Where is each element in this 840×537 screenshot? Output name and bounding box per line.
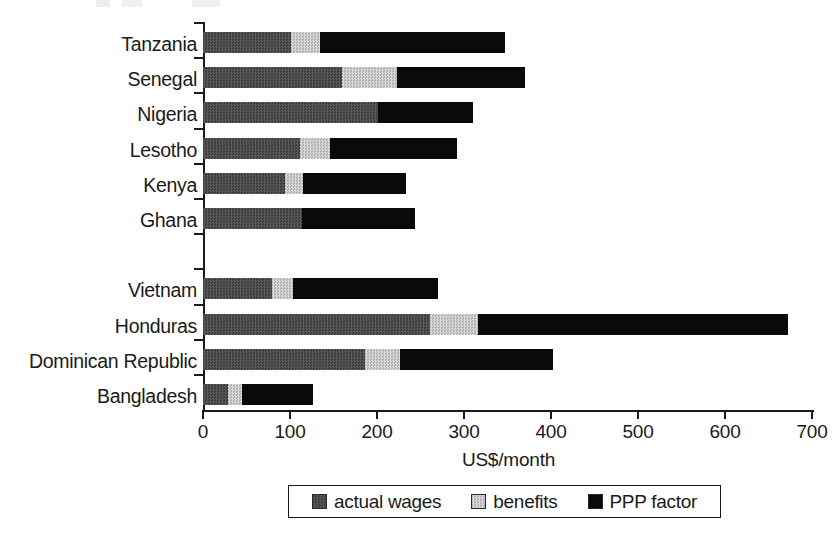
segment-wages <box>203 278 272 299</box>
segment-wages <box>203 67 342 88</box>
category-label-honduras: Honduras <box>2 315 197 337</box>
segment-wages <box>203 102 378 123</box>
segment-benefits <box>285 173 303 194</box>
category-label-vietnam: Vietnam <box>2 279 197 301</box>
value-tick-200 <box>376 410 378 419</box>
value-axis-line <box>203 410 814 412</box>
legend-item-actual-wages: actual wages <box>312 492 441 512</box>
value-tick-400 <box>550 410 552 419</box>
category-label-ghana: Ghana <box>2 209 197 231</box>
segment-benefits <box>365 349 400 370</box>
segment-wages <box>203 32 291 53</box>
stacked-bar-chart: TanzaniaSenegalNigeriaLesothoKenyaGhanaV… <box>0 0 840 537</box>
segment-wages <box>203 173 285 194</box>
category-label-dominican-republic: Dominican Republic <box>2 350 197 372</box>
segment-wages <box>203 349 365 370</box>
value-tick-label-700: 700 <box>782 421 840 443</box>
benefits-swatch <box>471 494 486 509</box>
segment-ppp <box>320 32 505 53</box>
legend-label: PPP factor <box>610 492 697 512</box>
segment-ppp <box>302 208 415 229</box>
category-tick <box>194 198 203 200</box>
segment-wages <box>203 384 228 405</box>
legend-item-benefits: benefits <box>471 492 557 512</box>
ppp-swatch <box>588 494 603 509</box>
category-tick <box>194 233 203 235</box>
segment-benefits <box>291 32 320 53</box>
cropped-title-remnant <box>96 0 286 7</box>
legend-label: benefits <box>493 492 557 512</box>
segment-benefits <box>342 67 397 88</box>
value-tick-label-300: 300 <box>434 421 494 443</box>
value-tick-100 <box>289 410 291 419</box>
segment-ppp <box>400 349 553 370</box>
value-tick-label-500: 500 <box>608 421 668 443</box>
legend-label: actual wages <box>334 492 441 512</box>
category-tick <box>194 92 203 94</box>
category-tick <box>194 268 203 270</box>
segment-ppp <box>242 384 312 405</box>
segment-ppp <box>293 278 438 299</box>
category-tick <box>194 304 203 306</box>
segment-benefits <box>228 384 242 405</box>
x-axis-title: US$/month <box>203 449 814 471</box>
value-tick-label-0: 0 <box>173 421 233 443</box>
value-tick-label-200: 200 <box>347 421 407 443</box>
category-label-tanzania: Tanzania <box>2 33 197 55</box>
value-tick-500 <box>637 410 639 419</box>
segment-wages <box>203 314 430 335</box>
category-label-bangladesh: Bangladesh <box>2 385 197 407</box>
segment-wages <box>203 208 302 229</box>
value-tick-600 <box>724 410 726 419</box>
category-tick <box>194 374 203 376</box>
category-label-senegal: Senegal <box>2 68 197 90</box>
wages-swatch <box>312 494 327 509</box>
value-tick-0 <box>202 410 204 419</box>
segment-benefits <box>430 314 478 335</box>
category-label-lesotho: Lesotho <box>2 139 197 161</box>
category-tick <box>194 22 203 24</box>
category-tick <box>194 128 203 130</box>
segment-ppp <box>397 67 525 88</box>
segment-ppp <box>478 314 789 335</box>
segment-wages <box>203 138 300 159</box>
segment-ppp <box>378 102 473 123</box>
category-label-nigeria: Nigeria <box>2 103 197 125</box>
segment-ppp <box>303 173 406 194</box>
value-tick-300 <box>463 410 465 419</box>
legend: actual wagesbenefitsPPP factor <box>288 485 721 518</box>
plot-area <box>203 22 812 410</box>
category-label-kenya: Kenya <box>2 174 197 196</box>
value-tick-700 <box>811 410 813 419</box>
segment-ppp <box>330 138 457 159</box>
segment-benefits <box>300 138 330 159</box>
category-tick <box>194 163 203 165</box>
category-tick <box>194 57 203 59</box>
category-axis-labels: TanzaniaSenegalNigeriaLesothoKenyaGhanaV… <box>0 22 197 410</box>
value-tick-label-400: 400 <box>521 421 581 443</box>
legend-item-ppp-factor: PPP factor <box>588 492 697 512</box>
segment-benefits <box>272 278 293 299</box>
category-tick <box>194 339 203 341</box>
value-tick-label-600: 600 <box>695 421 755 443</box>
value-tick-label-100: 100 <box>260 421 320 443</box>
